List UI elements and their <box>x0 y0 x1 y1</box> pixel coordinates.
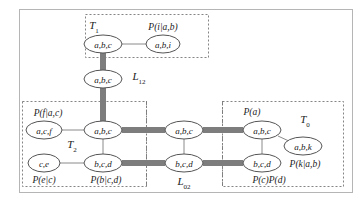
separator-label-L02: L02 <box>177 175 190 190</box>
tree-label-subscript: 1 <box>95 27 99 35</box>
node-label-n_t2_ce: c,e <box>39 159 49 169</box>
node-label-n_l12_abc: a,b,c <box>94 75 112 85</box>
node-label-n_t2_acf: a,c,f <box>36 126 52 136</box>
node-label-n_t1_abc: a,b,c <box>94 40 112 50</box>
separator-label-L12: L12 <box>132 70 145 85</box>
tree-label-T1: T1 <box>89 19 99 34</box>
potential-label-p_f_ac: P(f|a,c) <box>34 108 63 118</box>
figure-canvas: a,b,ca,b,ia,b,ca,c,fa,b,cc,eb,c,da,b,cb,… <box>0 0 364 208</box>
potential-label-p_i_ab: P(i|a,b) <box>148 22 177 32</box>
potential-label-p_b_cd: P(b|c,d) <box>91 175 122 185</box>
node-label-n_t2_bcd: b,c,d <box>94 159 112 169</box>
tree-label-subscript: 2 <box>73 146 77 154</box>
separator-label-subscript: 12 <box>139 78 146 86</box>
thin-edges-group <box>60 44 291 163</box>
node-label-n_l02_bcd: b,c,d <box>175 159 193 169</box>
potential-label-p_a: P(a) <box>244 107 261 117</box>
node-label-n_l02_abc: a,b,c <box>175 126 193 136</box>
node-label-n_t0_bcd: b,c,d <box>253 159 271 169</box>
tree-box-T0 <box>223 102 344 187</box>
node-label-n_t0_abc: a,b,c <box>253 126 271 136</box>
node-label-n_t0_abk: a,b,k <box>294 142 312 152</box>
separator-label-subscript: 02 <box>184 183 191 191</box>
tree-label-subscript: 0 <box>306 121 310 129</box>
potential-label-p_e_c: P(e|c) <box>32 175 55 185</box>
tree-label-T0: T0 <box>300 113 310 128</box>
node-label-n_t1_abi: a,b,i <box>155 40 171 50</box>
node-label-n_t2_abc: a,b,c <box>94 126 112 136</box>
potential-label-p_c_d: P(c)P(d) <box>252 175 285 185</box>
tree-label-T2: T2 <box>67 138 77 153</box>
potential-label-p_k_ab: P(k|a,b) <box>290 159 321 169</box>
thick-edges-group <box>103 53 243 163</box>
